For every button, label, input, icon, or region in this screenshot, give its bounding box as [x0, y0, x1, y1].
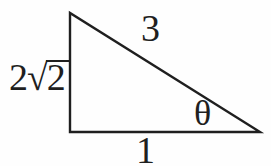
angle-theta-label: θ	[194, 95, 211, 131]
radical-coefficient: 2	[9, 56, 27, 98]
radical-sign-icon: √	[27, 56, 47, 98]
radical-overbar	[46, 60, 70, 63]
right-triangle-figure: 3 1 θ 2√2	[0, 0, 271, 166]
hypotenuse-length-label: 3	[141, 9, 160, 47]
left-side-length-label: 2√2	[9, 58, 65, 96]
triangle-polygon	[70, 13, 260, 132]
radicand: 2	[47, 56, 65, 98]
base-length-label: 1	[136, 131, 155, 166]
